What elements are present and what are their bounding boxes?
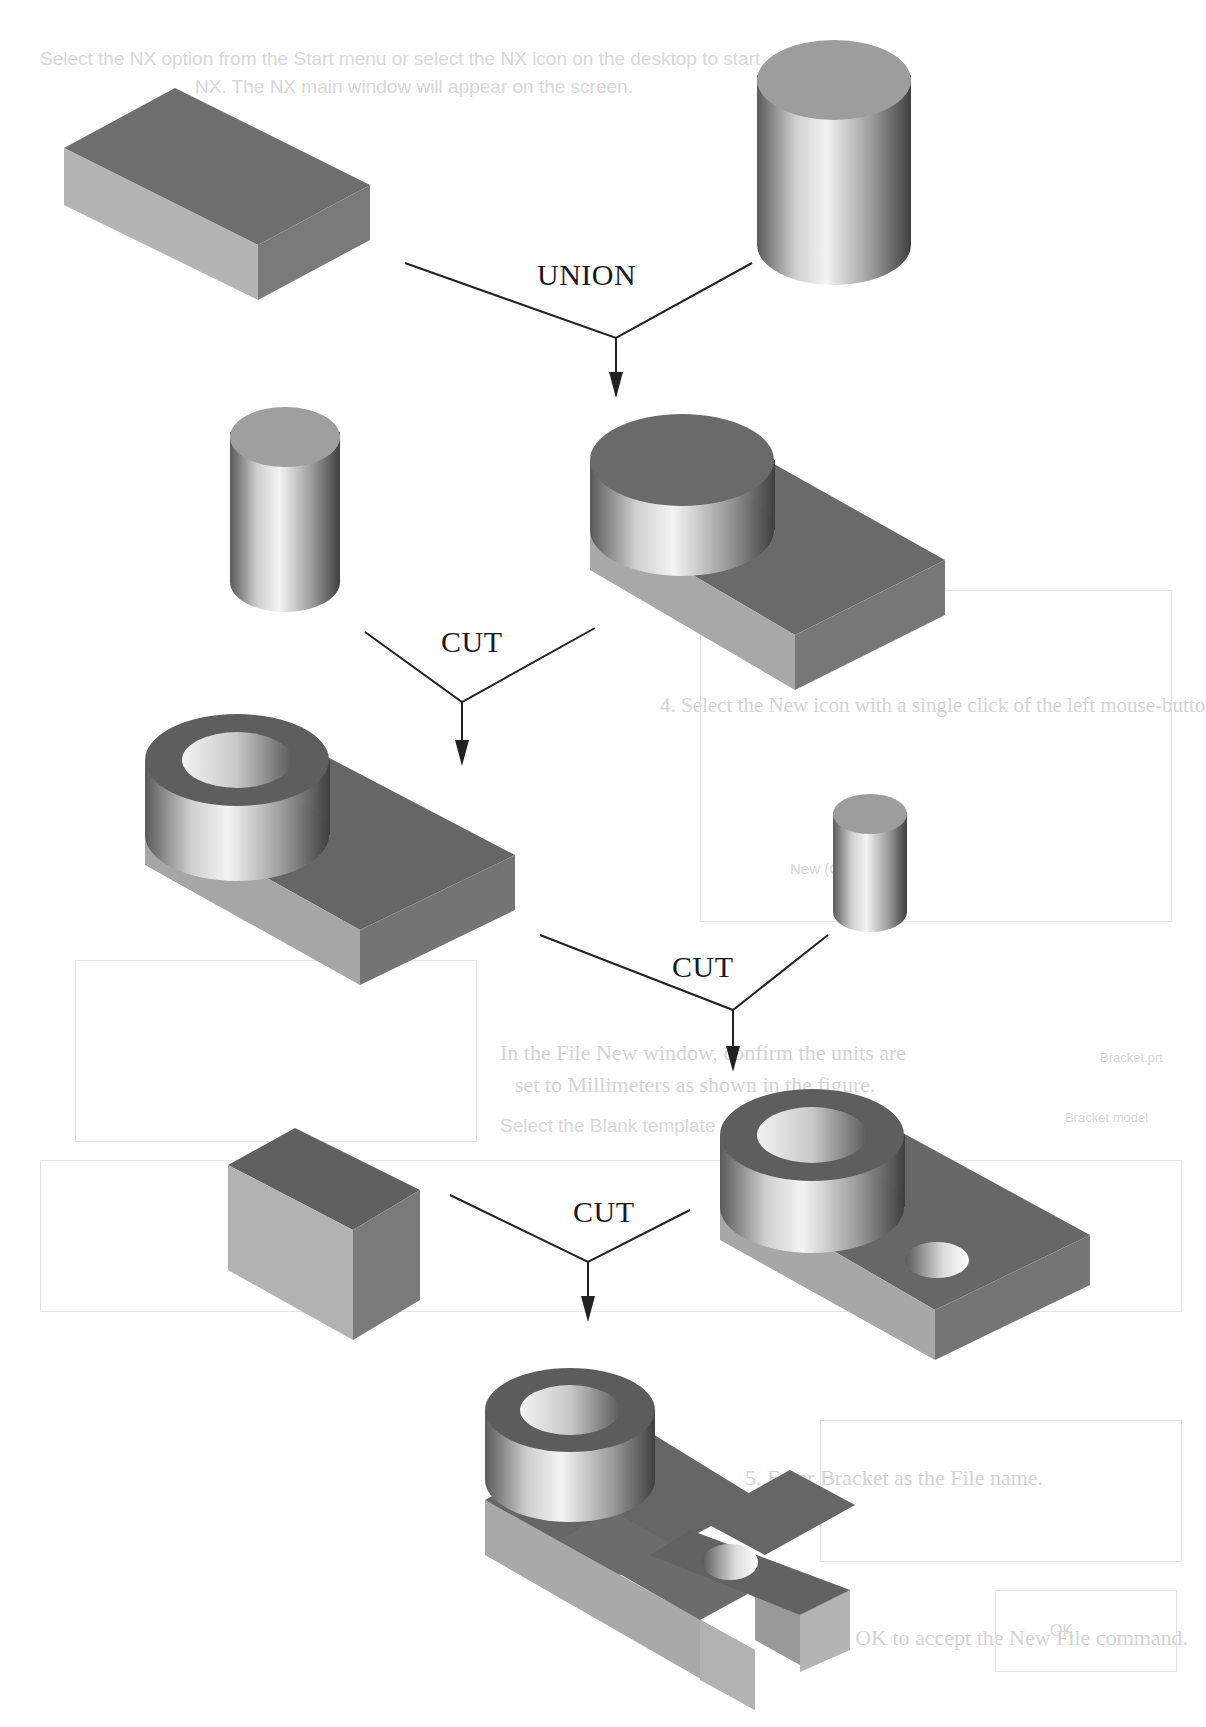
- cut2-label: CUT: [672, 950, 734, 984]
- union-result: [590, 414, 945, 690]
- union-label: UNION: [537, 258, 636, 292]
- cut3-arrowhead: [581, 1296, 595, 1322]
- cut-tool-slot-block: [228, 1128, 420, 1340]
- cut3-connector: [450, 1195, 690, 1310]
- final-part: [485, 1368, 855, 1710]
- input-cylinder: [757, 40, 911, 285]
- cut1-label: CUT: [441, 625, 503, 659]
- union-arrowhead: [609, 372, 623, 398]
- cut3-label: CUT: [573, 1195, 635, 1229]
- cut2-arrowhead: [726, 1046, 740, 1072]
- input-block: [64, 88, 370, 300]
- cut2-result: [720, 1089, 1090, 1360]
- cut1-arrowhead: [455, 740, 469, 766]
- cut-tool-cylinder: [230, 407, 340, 612]
- cut-tool-small-cylinder: [833, 794, 907, 932]
